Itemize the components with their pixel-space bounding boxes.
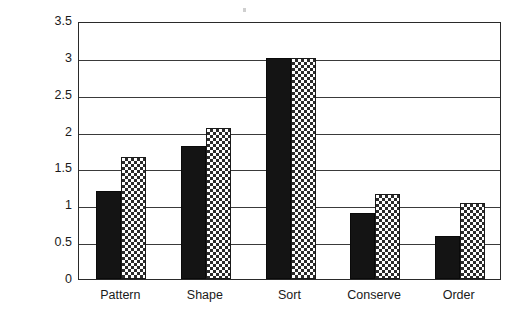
bar-order-series-2 <box>460 203 485 279</box>
x-axis-tick-label-pattern: Pattern <box>100 288 140 302</box>
bar-order-series-1 <box>435 236 460 279</box>
x-axis-tick-label-sort: Sort <box>278 288 301 302</box>
y-axis-tick-label: 1 <box>30 198 72 212</box>
bar-shape-series-2 <box>206 128 231 279</box>
bar-conserve-series-2 <box>375 194 400 279</box>
bar-pattern-series-2 <box>121 157 146 279</box>
y-axis-tick-label: 3 <box>30 51 72 65</box>
y-axis-tick-label: 2.5 <box>30 88 72 102</box>
y-axis-tick-label: 3.5 <box>30 14 72 28</box>
bar-pattern-series-1 <box>96 191 121 279</box>
bar-shape-series-1 <box>181 146 206 279</box>
y-axis-tick-label: 0 <box>30 272 72 286</box>
bar-conserve-series-1 <box>350 213 375 279</box>
x-axis-tick-label-shape: Shape <box>187 288 223 302</box>
bar-sort-series-2 <box>291 58 316 279</box>
x-axis-tick-label-order: Order <box>443 288 475 302</box>
bar-sort-series-1 <box>266 58 291 279</box>
y-axis-tick-label: 1.5 <box>30 161 72 175</box>
y-axis-tick-label: 0.5 <box>30 235 72 249</box>
bar-chart: Average score 00.511.522.533.5 PatternSh… <box>0 0 531 324</box>
x-axis-tick-label-conserve: Conserve <box>347 288 401 302</box>
scan-artifact-speck <box>243 8 246 12</box>
plot-area <box>78 22 501 280</box>
y-axis-tick-label: 2 <box>30 125 72 139</box>
